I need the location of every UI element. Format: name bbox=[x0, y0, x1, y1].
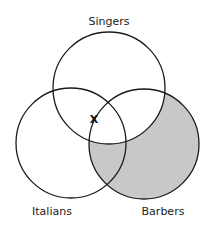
label-italians: Italians bbox=[32, 205, 72, 218]
shaded-region bbox=[0, 0, 214, 234]
label-singers: Singers bbox=[88, 15, 129, 28]
x-marker: X bbox=[90, 113, 99, 126]
label-barbers: Barbers bbox=[142, 205, 185, 218]
venn-diagram: Singers Italians Barbers X bbox=[0, 0, 214, 234]
